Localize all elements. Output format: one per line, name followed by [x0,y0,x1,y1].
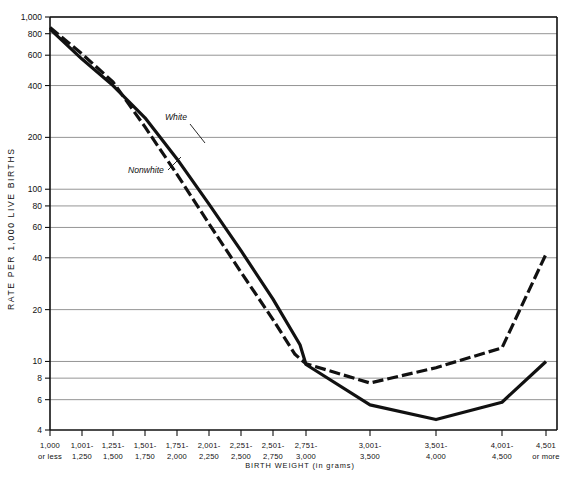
y-tick-label: 6 [37,395,42,405]
x-category-label: 2,501-2,750 [262,441,285,461]
y-tick-label: 60 [33,222,43,232]
y-tick-label: 4 [37,425,42,435]
birth-weight-mortality-chart: 1,0008006004002001008060402010864 1,000o… [0,0,582,478]
chart-figure: 1,0008006004002001008060402010864 1,000o… [0,0,582,478]
data-series [50,27,546,419]
x-category-label: 4,001-4,500 [491,441,514,461]
x-category-label: 1,001-1,250 [71,441,94,461]
x-category-label: 3,501-4,000 [425,441,448,461]
x-category-label: 2,251-2,500 [230,441,253,461]
grid-lines [50,17,557,400]
series-label-white: White [165,112,187,122]
series-line-white [50,29,546,419]
x-category-label: 1,751-2,000 [166,441,189,461]
y-axis-title: RATE PER 1,000 LIVE BIRTHS [6,147,16,310]
y-tick-labels: 1,0008006004002001008060402010864 [21,12,43,435]
y-tick-label: 200 [28,132,42,142]
x-category-labels: 1,000or less1,001-1,2501,251-1,5001,501-… [38,441,560,461]
x-category-label: 1,251-1,500 [102,441,125,461]
x-category-label: 1,501-1,750 [134,441,157,461]
y-tick-label: 400 [28,81,42,91]
white-leader [190,124,205,143]
x-category-label: 2,001-2,250 [198,441,221,461]
x-category-label: 3,001-3,500 [359,441,382,461]
x-category-label: 2,751-3,000 [295,441,318,461]
y-tick-label: 80 [33,201,43,211]
series-line-nonwhite [50,27,546,383]
y-tick-label: 800 [28,29,42,39]
y-tick-label: 20 [33,305,43,315]
y-tick-label: 40 [33,253,43,263]
x-category-label: 4,501or more [532,441,560,461]
y-tick-label: 1,000 [21,12,43,22]
series-label-nonwhite: Nonwhite [128,165,164,175]
y-tick-label: 8 [37,373,42,383]
plot-frame [50,17,557,430]
x-axis-title: BIRTH WEIGHT (in grams) [245,461,355,470]
y-tick-label: 100 [28,184,42,194]
y-tick-label: 10 [33,356,43,366]
x-category-label: 1,000or less [38,441,62,461]
x-tick-marks [50,430,546,436]
y-tick-label: 600 [28,50,42,60]
